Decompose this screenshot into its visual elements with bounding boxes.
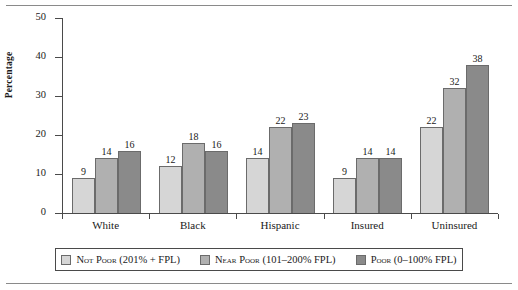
y-axis-tick-label: 20 bbox=[36, 128, 47, 139]
y-axis-tick: 0 bbox=[55, 213, 62, 214]
bar[interactable] bbox=[292, 123, 315, 213]
bar-group: 91414 bbox=[324, 18, 411, 213]
bar-value-label: 12 bbox=[166, 154, 176, 165]
bar[interactable] bbox=[182, 143, 205, 213]
bar-value-label: 23 bbox=[299, 111, 309, 122]
bar-column[interactable]: 9 bbox=[333, 18, 356, 213]
legend-item-label: Poor (0–100% FPL) bbox=[371, 254, 457, 265]
y-axis-tick: 50 bbox=[55, 18, 62, 19]
bar-chart-figure: Percentage 01020304050 91416121816142223… bbox=[0, 0, 518, 290]
bar-column[interactable]: 23 bbox=[292, 18, 315, 213]
bar-column[interactable]: 14 bbox=[356, 18, 379, 213]
bar[interactable] bbox=[443, 88, 466, 213]
bar[interactable] bbox=[205, 151, 228, 213]
bar-value-label: 14 bbox=[253, 146, 263, 157]
bar[interactable] bbox=[72, 178, 95, 213]
bar[interactable] bbox=[269, 127, 292, 213]
top-divider-rule bbox=[6, 5, 512, 6]
bar-value-label: 22 bbox=[276, 115, 286, 126]
x-axis-category-label: Black bbox=[149, 219, 236, 231]
bar-value-label: 14 bbox=[102, 146, 112, 157]
bar[interactable] bbox=[95, 158, 118, 213]
chart-legend: Not Poor (201% + FPL)Near Poor (101–200%… bbox=[55, 248, 463, 271]
bar[interactable] bbox=[118, 151, 141, 213]
legend-item-label: Near Poor (101–200% FPL) bbox=[215, 254, 336, 265]
bar-value-label: 14 bbox=[363, 146, 373, 157]
x-axis-category-label: Insured bbox=[324, 219, 411, 231]
bar-group: 142223 bbox=[237, 18, 324, 213]
bar-value-label: 9 bbox=[81, 166, 86, 177]
y-axis-tick-label: 10 bbox=[36, 167, 47, 178]
x-axis-line bbox=[62, 213, 498, 214]
bar-column[interactable]: 18 bbox=[182, 18, 205, 213]
bar-groups: 9141612181614222391414223238 bbox=[63, 18, 498, 213]
bar-value-label: 9 bbox=[342, 166, 347, 177]
y-axis-tick-label: 30 bbox=[36, 89, 47, 100]
y-axis-tick-label: 40 bbox=[36, 50, 47, 61]
x-axis-category-label: Uninsured bbox=[411, 219, 498, 231]
legend-swatch-icon bbox=[200, 255, 210, 265]
bar[interactable] bbox=[159, 166, 182, 213]
legend-item-label: Not Poor (201% + FPL) bbox=[76, 254, 180, 265]
bar[interactable] bbox=[466, 65, 489, 213]
x-axis-category-labels: WhiteBlackHispanicInsuredUninsured bbox=[62, 219, 498, 231]
legend-item[interactable]: Near Poor (101–200% FPL) bbox=[200, 254, 336, 265]
bar[interactable] bbox=[356, 158, 379, 213]
bar-value-label: 14 bbox=[386, 146, 396, 157]
bar-value-label: 32 bbox=[450, 76, 460, 87]
bar[interactable] bbox=[379, 158, 402, 213]
bar-column[interactable]: 32 bbox=[443, 18, 466, 213]
bar[interactable] bbox=[333, 178, 356, 213]
bar[interactable] bbox=[246, 158, 269, 213]
x-axis-category-label: Hispanic bbox=[236, 219, 323, 231]
bar-value-label: 22 bbox=[427, 115, 437, 126]
bar-column[interactable]: 14 bbox=[379, 18, 402, 213]
y-axis-tick: 30 bbox=[55, 96, 62, 97]
bar-column[interactable]: 16 bbox=[205, 18, 228, 213]
bar-value-label: 38 bbox=[473, 53, 483, 64]
y-axis-tick: 10 bbox=[55, 174, 62, 175]
x-axis-tick bbox=[498, 214, 499, 219]
legend-swatch-icon bbox=[61, 255, 71, 265]
bar-group: 91416 bbox=[63, 18, 150, 213]
bar-column[interactable]: 38 bbox=[466, 18, 489, 213]
legend-swatch-icon bbox=[356, 255, 366, 265]
legend-item[interactable]: Poor (0–100% FPL) bbox=[356, 254, 457, 265]
bar-column[interactable]: 9 bbox=[72, 18, 95, 213]
x-axis-category-label: White bbox=[62, 219, 149, 231]
bar-value-label: 18 bbox=[189, 131, 199, 142]
bar-value-label: 16 bbox=[212, 139, 222, 150]
bar-value-label: 16 bbox=[125, 139, 135, 150]
y-axis-tick: 40 bbox=[55, 57, 62, 58]
bar-column[interactable]: 16 bbox=[118, 18, 141, 213]
bottom-divider-rule bbox=[6, 283, 512, 284]
bar-column[interactable]: 14 bbox=[246, 18, 269, 213]
bar-column[interactable]: 22 bbox=[269, 18, 292, 213]
bar-column[interactable]: 22 bbox=[420, 18, 443, 213]
legend-item[interactable]: Not Poor (201% + FPL) bbox=[61, 254, 180, 265]
y-axis-title: Percentage bbox=[4, 30, 14, 120]
bar-column[interactable]: 14 bbox=[95, 18, 118, 213]
y-axis-tick-label: 50 bbox=[36, 11, 47, 22]
bar-group: 223238 bbox=[411, 18, 498, 213]
bar[interactable] bbox=[420, 127, 443, 213]
y-axis-tick-label: 0 bbox=[41, 206, 46, 217]
bar-column[interactable]: 12 bbox=[159, 18, 182, 213]
bar-group: 121816 bbox=[150, 18, 237, 213]
y-axis-tick: 20 bbox=[55, 135, 62, 136]
plot-area: 01020304050 9141612181614222391414223238 bbox=[62, 18, 498, 214]
